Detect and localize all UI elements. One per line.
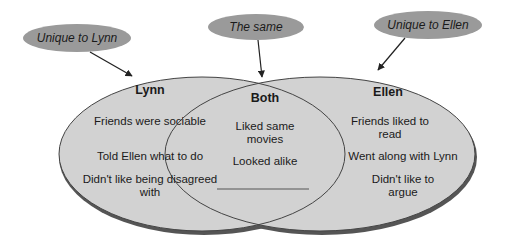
lynn-item-2: Told Ellen what to do [75, 150, 225, 163]
callout-lynn-label: Unique to Lynn [23, 31, 131, 45]
arrow-same [258, 40, 262, 77]
ellen-title: Ellen [338, 86, 438, 99]
lynn-title: Lynn [90, 84, 210, 97]
ellen-item-1: Friends liked to read [350, 115, 430, 141]
ellen-item-3: Didn't like to argue [358, 173, 448, 199]
both-title: Both [225, 92, 305, 105]
callout-ellen-label: Unique to Ellen [374, 18, 482, 32]
both-item-2: Looked alike [215, 155, 315, 168]
lynn-item-1: Friends were sociable [75, 115, 225, 128]
callout-same-label: The same [208, 20, 304, 34]
ellen-item-2: Went along with Lynn [338, 150, 468, 163]
both-item-1: Liked same movies [220, 120, 310, 146]
arrow-lynn [90, 52, 132, 76]
arrow-ellen [378, 38, 405, 70]
lynn-item-3: Didn't like being disagreed with [80, 173, 220, 199]
